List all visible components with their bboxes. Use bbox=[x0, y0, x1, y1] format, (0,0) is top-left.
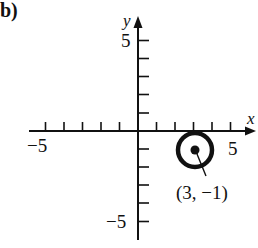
point-label: (3, −1) bbox=[176, 182, 228, 204]
x-tick-label-neg5: −5 bbox=[27, 135, 47, 156]
x-axis-label: x bbox=[246, 109, 255, 128]
y-axis: y 5 −5 bbox=[106, 11, 149, 240]
coordinate-plane: x −5 5 y 5 −5 bbox=[0, 0, 258, 248]
y-axis-arrow-icon bbox=[134, 16, 143, 28]
x-axis: x −5 5 bbox=[27, 109, 256, 159]
x-tick-label-5: 5 bbox=[228, 138, 238, 159]
coordinate-plane-figure: b) x −5 5 bbox=[0, 0, 258, 248]
point-dot-icon bbox=[191, 146, 200, 155]
y-axis-label: y bbox=[121, 11, 131, 30]
plotted-point: (3, −1) bbox=[176, 133, 228, 204]
y-tick-label-neg5: −5 bbox=[106, 211, 126, 232]
y-tick-label-5: 5 bbox=[121, 30, 131, 51]
